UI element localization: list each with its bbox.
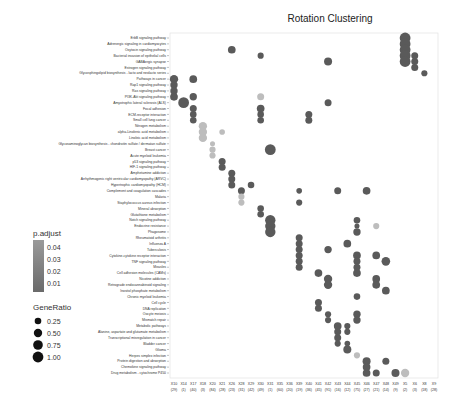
data-point: [189, 75, 197, 83]
column-label: X30: [257, 382, 263, 386]
row-label: Drug metabolism - cytochrome P450: [111, 371, 166, 375]
size-legend-dot: [35, 318, 42, 325]
data-point: [382, 287, 390, 295]
colorbar-tick: 0.02: [47, 268, 61, 275]
column-label: X39: [296, 382, 302, 386]
data-point: [334, 334, 341, 341]
data-point: [257, 111, 264, 118]
row-label: Amphetamine addiction: [131, 171, 167, 175]
data-point: [354, 217, 361, 224]
row-label: Glycosphingolipid biosynthesis - lacto a…: [79, 71, 166, 75]
data-point: [178, 97, 189, 108]
data-point: [257, 211, 264, 218]
data-point: [199, 134, 207, 142]
row-label: Rheumatoid arthritis: [136, 236, 167, 240]
row-label: Acute myeloid leukemia: [130, 154, 166, 158]
data-point: [411, 64, 418, 71]
data-point: [382, 358, 389, 365]
row-label: Bladder cancer: [143, 342, 167, 346]
row-label: Chemokine signaling pathway: [121, 365, 166, 369]
data-point: [353, 228, 360, 235]
data-point: [372, 281, 380, 289]
legend-size-title: GeneRatio: [33, 303, 72, 312]
data-point: [373, 223, 379, 229]
data-point: [401, 369, 409, 377]
size-legend-label: 0.75: [47, 342, 61, 349]
data-point: [305, 117, 312, 124]
column-label: X26: [229, 382, 235, 386]
row-label: Metabolic pathways: [136, 324, 166, 328]
column-count: (1): [268, 388, 272, 392]
row-label: Ras signaling pathway: [132, 89, 166, 93]
row-label: Mineral absorption: [138, 207, 166, 211]
data-point: [210, 141, 215, 146]
size-legend-dot: [34, 329, 42, 337]
data-point: [209, 152, 215, 158]
row-label: Glutathione metabolism: [130, 213, 166, 217]
column-label: X42: [325, 382, 331, 386]
data-point: [363, 369, 371, 377]
column-count: (45): [315, 388, 321, 392]
column-label: X5: [403, 382, 407, 386]
colorbar: [33, 240, 44, 292]
column-label: X6: [413, 382, 417, 386]
data-point: [257, 117, 264, 124]
column-count: (23): [229, 388, 235, 392]
row-label: alpha-Linolenic acid metabolism: [118, 130, 166, 134]
data-point: [391, 369, 399, 377]
data-point: [190, 105, 197, 112]
data-point: [238, 194, 244, 200]
column-label: X10: [171, 382, 177, 386]
data-point: [421, 70, 427, 76]
data-point: [382, 257, 391, 266]
data-point: [353, 269, 361, 277]
column-label: X40: [306, 382, 312, 386]
data-point: [324, 246, 331, 253]
data-point: [296, 264, 303, 271]
column-label: X9: [432, 382, 436, 386]
data-point: [219, 129, 225, 135]
row-labels: ErbB signaling pathwayAdrenergic signali…: [58, 36, 169, 375]
row-label: Staphylococcus aureus infection: [117, 201, 166, 205]
column-count: (31): [238, 388, 244, 392]
legend: p.adjust 0.040.030.020.01 GeneRatio 0.25…: [33, 229, 72, 362]
data-point: [296, 188, 302, 194]
row-label: ErbB signaling pathway: [131, 36, 167, 40]
data-point: [344, 329, 350, 335]
row-label: Inositol phosphate metabolism: [120, 289, 166, 293]
row-label: Rap1 signaling pathway: [130, 83, 166, 87]
row-label: HIF-1 signaling pathway: [130, 165, 167, 169]
data-point: [343, 240, 351, 248]
column-count: (27): [363, 388, 369, 392]
column-label: X46: [363, 382, 369, 386]
column-count: (18): [421, 388, 427, 392]
column-count: (28): [431, 388, 437, 392]
row-label: p53 signaling pathway: [132, 160, 166, 164]
row-label: Adrenergic signaling in cardiomyocytes: [107, 42, 166, 46]
column-label: X35: [277, 382, 283, 386]
data-point: [238, 187, 245, 194]
row-label: Estrogen signaling pathway: [125, 66, 167, 70]
row-label: Tuberculosis: [147, 248, 166, 252]
size-legend-dot: [33, 340, 43, 350]
row-label: ECM-receptor interaction: [128, 113, 166, 117]
column-count: (75): [354, 388, 360, 392]
column-count: (91): [325, 388, 331, 392]
row-label: Influenza A: [149, 242, 167, 246]
row-label: Alanine, aspartate and glutamate metabol…: [98, 330, 166, 334]
data-point: [257, 93, 264, 100]
column-count: (29): [171, 388, 177, 392]
row-label: Glioma: [155, 348, 166, 352]
column-count: (49): [257, 388, 263, 392]
column-count: (12): [344, 388, 350, 392]
data-point: [170, 93, 178, 101]
data-point: [265, 227, 275, 237]
row-label: Arrhythmogenic right ventricular cardiom…: [81, 177, 166, 181]
row-label: Nicotine addiction: [139, 277, 166, 281]
row-label: Bacterial invasion of epithelial cells: [114, 54, 167, 58]
column-label: X29: [248, 382, 254, 386]
row-label: Small cell lung cancer: [133, 118, 167, 122]
row-label: Amyotrophic lateral sclerosis (ALS): [113, 101, 166, 105]
column-count: (42): [248, 388, 254, 392]
colorbar-tick: 0.03: [47, 256, 61, 263]
